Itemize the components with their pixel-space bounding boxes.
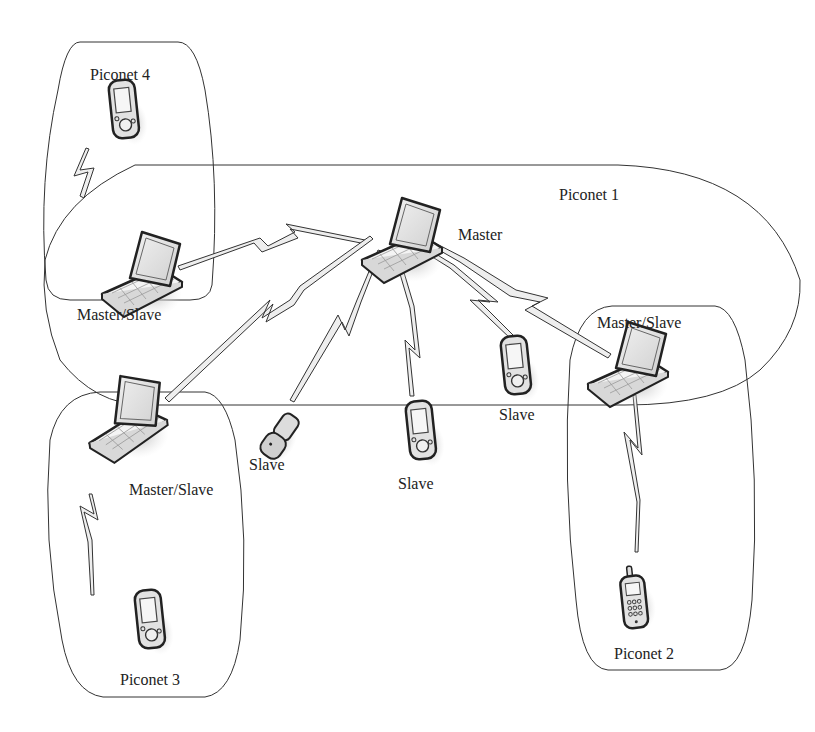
piconet-2-label: Piconet 2 [614,645,674,663]
laptop-icon-ms-bottom-left [81,371,172,466]
laptop-icon-ms-right [588,322,668,407]
master-slave-right-label: Master/Slave [597,314,681,332]
scatternet-diagram: Piconet 4 Piconet 1 Master Master/Slave … [0,0,815,732]
link-ms-right-phone [624,395,642,552]
link-ms-bl-pda3 [80,494,98,595]
slave-center-label: Slave [398,475,434,493]
cell-phone-icon [619,564,659,631]
piconet-4-label: Piconet 4 [90,66,150,84]
slave-right-label: Slave [499,406,535,424]
pda-icon-piconet4 [108,78,150,147]
master-label: Master [458,226,502,244]
piconet-1-label: Piconet 1 [559,186,619,204]
pda-icon-piconet3 [134,588,176,657]
master-slave-left-label: Master/Slave [77,306,161,324]
master-slave-bottom-left-label: Master/Slave [129,481,213,499]
laptop-icon-ms-left [102,232,182,317]
piconet-3-label: Piconet 3 [120,671,180,689]
pda-icon-slave-right [500,334,542,403]
diagram-graphics [0,0,815,732]
slave-flip-label: Slave [249,456,285,474]
link-ms-left-pda4 [74,148,94,198]
laptop-icon-master [362,198,442,283]
link-master-slave-flip [290,250,381,402]
pda-icon-slave-center [405,399,447,468]
